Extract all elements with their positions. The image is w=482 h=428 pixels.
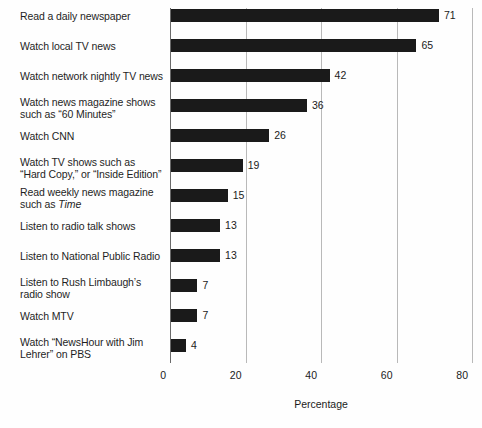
bar-group: 13: [171, 249, 237, 262]
chart-row: Listen to National Public Radio13: [0, 248, 482, 278]
bar: [171, 99, 307, 112]
category-label: Watch TV shows such as“Hard Copy,” or “I…: [20, 156, 166, 180]
bar-value-label: 7: [202, 309, 208, 322]
category-label-line: Watch local TV news: [20, 40, 166, 52]
category-label-line: such as “60 Minutes”: [20, 108, 166, 120]
bar-group: 42: [171, 69, 346, 82]
bar-group: 13: [171, 219, 237, 232]
bar-group: 36: [171, 99, 324, 112]
bar: [171, 339, 186, 352]
category-label: Listen to National Public Radio: [20, 250, 166, 262]
category-label-title-italic: Time: [58, 198, 81, 210]
bar: [171, 309, 197, 322]
category-label-line: radio show: [20, 288, 166, 300]
x-tick-label: 0: [126, 369, 166, 381]
chart-row: Read a daily newspaper71: [0, 8, 482, 38]
bar-group: 65: [171, 39, 433, 52]
chart-row: Watch news magazine showssuch as “60 Min…: [0, 98, 482, 128]
bar-value-label: 4: [191, 339, 197, 352]
bar-value-label: 42: [335, 69, 347, 82]
bar-value-label: 7: [202, 279, 208, 292]
bar: [171, 219, 220, 232]
category-label-line: Watch TV shows such as: [20, 156, 166, 168]
category-label-line: Lehrer” on PBS: [20, 348, 166, 360]
chart-row: Listen to Rush Limbaugh’sradio show7: [0, 278, 482, 308]
category-label-line: Listen to National Public Radio: [20, 250, 166, 262]
bar-group: 19: [171, 159, 259, 172]
chart-row: Watch TV shows such as“Hard Copy,” or “I…: [0, 158, 482, 188]
category-label: Watch CNN: [20, 130, 166, 142]
category-label: Watch network nightly TV news: [20, 70, 166, 82]
chart-row: Watch CNN26: [0, 128, 482, 158]
bar-value-label: 65: [421, 39, 433, 52]
category-label-line: Watch MTV: [20, 310, 166, 322]
x-tick-label: 60: [353, 369, 393, 381]
category-label-line: Watch “NewsHour with Jim: [20, 336, 166, 348]
category-label-line: Read a daily newspaper: [20, 10, 166, 22]
bar-group: 7: [171, 309, 208, 322]
bar-value-label: 15: [233, 189, 245, 202]
x-axis: 020406080: [0, 363, 482, 383]
bar-group: 4: [171, 339, 197, 352]
category-label-line: Read weekly news magazine: [20, 186, 166, 198]
category-label-line: “Hard Copy,” or “Inside Edition”: [20, 168, 166, 180]
bar-value-label: 19: [248, 159, 260, 172]
category-label-line: Watch CNN: [20, 130, 166, 142]
bar: [171, 159, 243, 172]
bar: [171, 279, 197, 292]
chart-row: Read weekly news magazinesuch as Time15: [0, 188, 482, 218]
chart-row: Watch MTV7: [0, 308, 482, 338]
chart-rows: Read a daily newspaper71Watch local TV n…: [0, 8, 482, 368]
category-label: Listen to radio talk shows: [20, 220, 166, 232]
category-label-line: such as Time: [20, 198, 166, 210]
category-label-line: Listen to Rush Limbaugh’s: [20, 276, 166, 288]
bar: [171, 9, 439, 22]
x-axis-title: Percentage: [170, 398, 472, 410]
category-label: Listen to Rush Limbaugh’sradio show: [20, 276, 166, 300]
chart-row: Watch network nightly TV news42: [0, 68, 482, 98]
bar: [171, 249, 220, 262]
bar-value-label: 71: [444, 9, 456, 22]
category-label: Watch “NewsHour with JimLehrer” on PBS: [20, 336, 166, 360]
category-label: Watch MTV: [20, 310, 166, 322]
x-tick-label: 80: [428, 369, 468, 381]
bar-value-label: 26: [274, 129, 286, 142]
bar-group: 71: [171, 9, 456, 22]
x-tick-label: 40: [277, 369, 317, 381]
bar-chart-figure: Read a daily newspaper71Watch local TV n…: [0, 0, 482, 428]
bar: [171, 189, 228, 202]
bar-value-label: 36: [312, 99, 324, 112]
bar-value-label: 13: [225, 219, 237, 232]
bar-group: 15: [171, 189, 244, 202]
bar-value-label: 13: [225, 249, 237, 262]
category-label: Watch news magazine showssuch as “60 Min…: [20, 96, 166, 120]
chart-row: Listen to radio talk shows13: [0, 218, 482, 248]
chart-row: Watch local TV news65: [0, 38, 482, 68]
bar-group: 7: [171, 279, 208, 292]
category-label-line: Watch news magazine shows: [20, 96, 166, 108]
category-label-line: Watch network nightly TV news: [20, 70, 166, 82]
category-label: Read weekly news magazinesuch as Time: [20, 186, 166, 210]
category-label-line: Listen to radio talk shows: [20, 220, 166, 232]
bar-group: 26: [171, 129, 286, 142]
category-label: Read a daily newspaper: [20, 10, 166, 22]
bar: [171, 39, 416, 52]
category-label-text: such as: [20, 198, 58, 210]
x-tick-label: 20: [202, 369, 242, 381]
bar: [171, 69, 330, 82]
bar: [171, 129, 269, 142]
category-label: Watch local TV news: [20, 40, 166, 52]
